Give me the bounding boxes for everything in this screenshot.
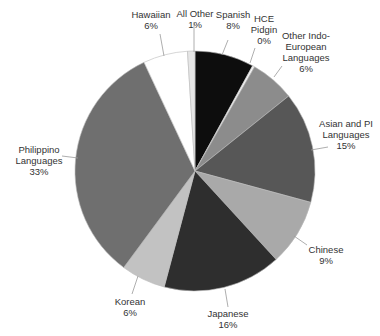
label-korean: Korean 6% xyxy=(106,296,154,318)
label-pct: 33% xyxy=(8,166,70,177)
label-name: Other Indo- xyxy=(276,30,336,41)
label-name: Languages xyxy=(8,155,70,166)
label-name: Philippino xyxy=(8,144,70,155)
label-pct: 16% xyxy=(200,319,256,330)
label-name: Hawaiian xyxy=(126,9,176,20)
label-pct: 6% xyxy=(126,20,176,31)
label-name: Japanese xyxy=(200,308,256,319)
pie-slices xyxy=(75,51,315,291)
label-pct: 15% xyxy=(315,140,377,151)
label-asian-pi: Asian and PI Languages 15% xyxy=(315,118,377,151)
label-name: Languages xyxy=(315,129,377,140)
label-pct: 9% xyxy=(302,255,350,266)
label-philippino: Philippino Languages 33% xyxy=(8,144,70,177)
label-pct: 6% xyxy=(276,63,336,74)
label-name: HCE xyxy=(244,13,284,24)
label-japanese: Japanese 16% xyxy=(200,308,256,330)
label-name: Chinese xyxy=(302,244,350,255)
label-name: Asian and PI xyxy=(315,118,377,129)
label-name: European xyxy=(276,41,336,52)
label-other-indo-european: Other Indo- European Languages 6% xyxy=(276,30,336,74)
label-chinese: Chinese 9% xyxy=(302,244,350,266)
label-name: Languages xyxy=(276,52,336,63)
label-name: Korean xyxy=(106,296,154,307)
label-pct: 6% xyxy=(106,307,154,318)
label-hawaiian: Hawaiian 6% xyxy=(126,9,176,31)
